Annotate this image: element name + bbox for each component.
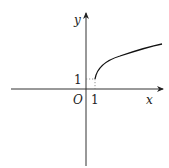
function-curve (95, 44, 162, 79)
x-axis-label: x (146, 93, 153, 107)
x-tick-label: 1 (91, 93, 99, 107)
graph-canvas: y x O 1 1 (0, 0, 169, 168)
origin-label: O (73, 93, 83, 107)
y-tick-label: 1 (74, 73, 82, 87)
y-axis-label: y (73, 13, 81, 27)
